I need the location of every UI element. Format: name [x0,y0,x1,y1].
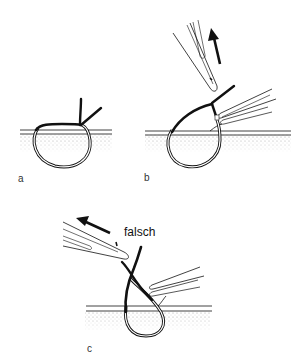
panel-b [145,20,291,167]
panel-a [20,99,112,167]
panel-label-c: c [87,344,92,354]
panel-label-a: a [18,174,24,184]
suture-knot-thread [36,124,81,130]
suture-end-diagonal [212,86,234,103]
suture-thread [172,104,212,132]
arrow-left-icon [76,216,110,233]
suture-end-diagonal [81,108,101,125]
annotation-falsch: falsch [124,226,155,238]
panel-label-b: b [144,173,150,183]
forceps-right [149,267,204,296]
suture-end-vertical [80,99,81,125]
forceps-right [218,89,276,124]
arrow-up-icon [208,28,220,64]
